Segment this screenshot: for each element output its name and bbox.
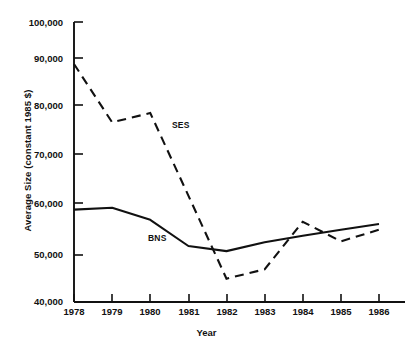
y-axis-ticks (74, 22, 83, 255)
x-tick-label-1986: 1986 (359, 306, 399, 317)
x-tick-label-1979: 1979 (92, 306, 132, 317)
x-tick-label-1984: 1984 (283, 306, 323, 317)
x-tick-label-1980: 1980 (130, 306, 170, 317)
chart-figure: Average Size (constant 1985 $) 100,000 9… (0, 0, 413, 346)
x-axis-ticks (74, 294, 379, 302)
caption-fragment (0, 340, 413, 346)
x-axis-title: Year (0, 327, 413, 338)
plot-area (0, 0, 413, 346)
x-tick-label-1983: 1983 (245, 306, 285, 317)
x-tick-label-1981: 1981 (169, 306, 209, 317)
x-tick-label-1985: 1985 (321, 306, 361, 317)
x-tick-label-1978: 1978 (54, 306, 94, 317)
series-line-ses (74, 64, 379, 279)
x-tick-label-1982: 1982 (207, 306, 247, 317)
series-line-bns (74, 208, 379, 251)
series-annotation-ses: SES (172, 120, 190, 130)
series-annotation-bns: BNS (148, 233, 167, 243)
